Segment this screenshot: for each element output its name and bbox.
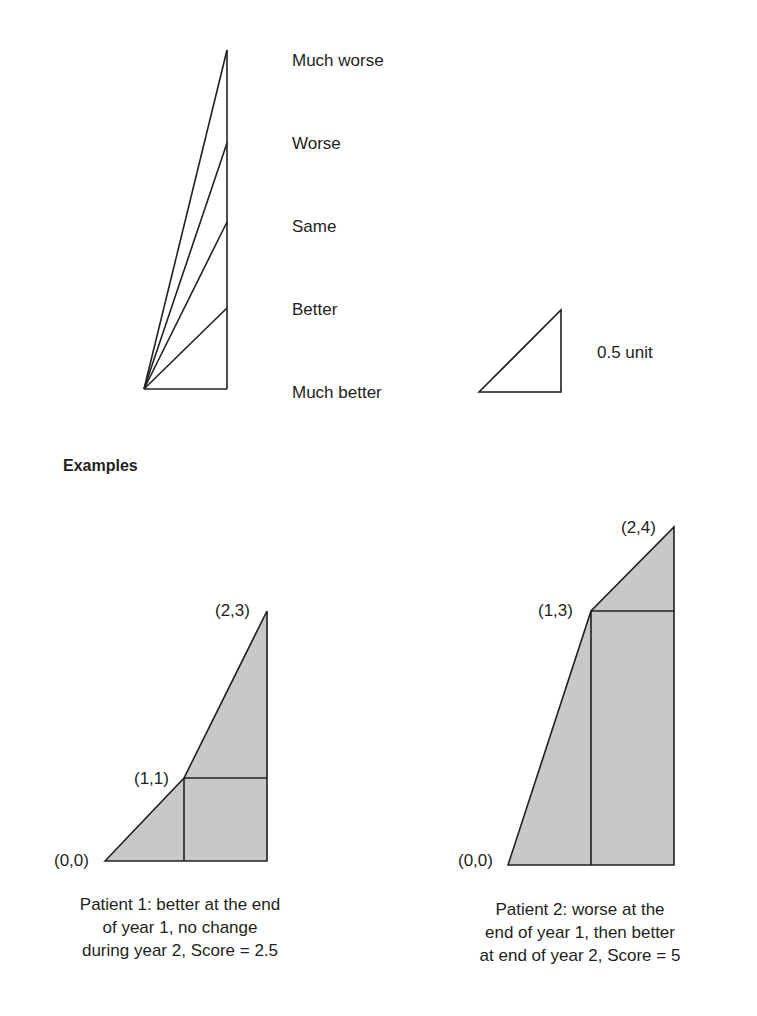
patient1-point-1: (1,1) xyxy=(134,769,169,788)
label-better: Better xyxy=(292,300,338,319)
ray-much-worse xyxy=(144,50,227,389)
patient1-caption: Patient 1: better at the end of year 1, … xyxy=(30,893,330,962)
ray-worse xyxy=(144,143,227,389)
patient1-point-2: (2,3) xyxy=(215,601,250,620)
label-much-better: Much better xyxy=(292,383,382,402)
patient1-caption-line: during year 2, Score = 2.5 xyxy=(30,939,330,962)
ray-better xyxy=(144,308,227,389)
label-same: Same xyxy=(292,217,336,236)
patient2-caption-line: end of year 1, then better xyxy=(430,921,730,944)
scale-fan xyxy=(144,50,227,389)
ray-same xyxy=(144,222,227,389)
unit-triangle xyxy=(479,310,561,392)
label-much-worse: Much worse xyxy=(292,51,384,70)
patient1-caption-line: Patient 1: better at the end xyxy=(30,893,330,916)
patient2-caption-line: Patient 2: worse at the xyxy=(430,898,730,921)
patient2-figure xyxy=(508,527,674,865)
examples-heading: Examples xyxy=(63,457,138,474)
patient1-caption-line: of year 1, no change xyxy=(30,916,330,939)
patient1-point-0: (0,0) xyxy=(54,851,89,870)
label-worse: Worse xyxy=(292,134,341,153)
patient2-caption: Patient 2: worse at the end of year 1, t… xyxy=(430,898,730,967)
patient2-point-2: (2,4) xyxy=(621,518,656,537)
patient1-area xyxy=(105,611,267,861)
patient2-caption-line: at end of year 2, Score = 5 xyxy=(430,944,730,967)
patient2-point-0: (0,0) xyxy=(458,851,493,870)
scoring-diagram: Much worse Worse Same Better Much better… xyxy=(0,0,757,1016)
patient1-figure xyxy=(105,611,267,861)
patient2-point-1: (1,3) xyxy=(538,601,573,620)
unit-label: 0.5 unit xyxy=(597,343,653,362)
